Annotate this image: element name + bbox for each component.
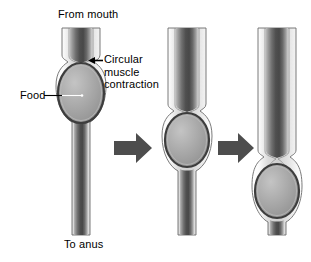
progress-arrow-1 bbox=[114, 133, 152, 163]
lumen-upper bbox=[266, 28, 288, 158]
lumen-upper bbox=[176, 28, 198, 112]
peristalsis-diagram bbox=[0, 0, 311, 262]
arrow-right-icon bbox=[218, 133, 254, 163]
food-bolus bbox=[255, 164, 299, 218]
lumen-lower bbox=[180, 169, 194, 235]
label-to-anus: To anus bbox=[64, 238, 103, 251]
leader-endpoint-dot bbox=[81, 94, 84, 97]
panel-1 bbox=[55, 28, 106, 235]
lumen-lower bbox=[74, 120, 88, 235]
label-circular-muscle-contraction: Circular muscle contraction bbox=[104, 53, 159, 91]
progress-arrow-2 bbox=[218, 133, 254, 163]
food-bolus bbox=[165, 113, 209, 167]
panel-3 bbox=[252, 28, 302, 235]
label-from-mouth: From mouth bbox=[58, 8, 118, 21]
lumen-upper bbox=[70, 28, 92, 63]
panel-2 bbox=[162, 28, 212, 235]
arrow-right-icon bbox=[114, 133, 152, 163]
diagram-canvas bbox=[0, 0, 311, 262]
lumen-lower bbox=[270, 220, 284, 235]
label-food: Food bbox=[20, 89, 45, 102]
food-bolus bbox=[58, 63, 104, 123]
